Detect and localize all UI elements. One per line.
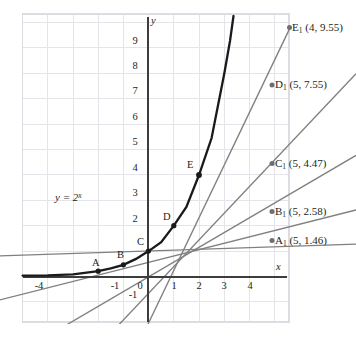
x-tick-0: 0 [133,281,147,292]
x-tick-neg4: -4 [30,281,48,292]
x-axis-name: x [276,262,281,273]
secant-lines [0,28,356,342]
endpoint-label-C1: C1 (5, 4.47) [275,158,326,170]
point-A-marker [96,269,101,274]
secant-line-E [127,28,290,342]
point-label-C: C [137,237,144,248]
point-E-marker [196,172,202,178]
x-tick-neg1: -1 [106,281,124,292]
endpoint-label-A1: A1 (5, 1.46) [275,235,327,247]
endpoint-label-E1: E1 (4, 9.55) [292,22,343,34]
x-tick-1: 1 [167,281,181,292]
endpoint-label-D1: D1 (5, 7.55) [275,79,327,91]
x-tick-3: 3 [217,281,231,292]
y-tick-6: 6 [128,112,142,123]
axes [23,17,287,322]
endpoint-label-A1-base: A [275,234,283,246]
y-axis-name: y [151,16,156,27]
endpoint-label-B1: B1 (5, 2.58) [275,206,326,218]
y-tick-2: 2 [128,214,142,225]
point-A1-marker [270,238,275,243]
point-B-marker [121,262,126,267]
endpoint-label-E1-base: E [292,21,299,33]
point-C-marker [146,249,151,254]
x-tick-4: 4 [243,281,257,292]
y-tick-4: 4 [128,163,142,174]
y-tick-7: 7 [128,86,142,97]
point-label-D: D [163,212,171,223]
y-tick-3: 3 [128,188,142,199]
y-tick-5: 5 [128,137,142,148]
x-tick-2: 2 [192,281,206,292]
point-label-B: B [117,250,124,261]
point-label-E: E [187,160,193,171]
endpoint-label-C1-coords: (5, 4.47) [286,157,326,169]
equation-exponent: x [78,191,81,200]
equation-label-text: y = 2 [55,191,78,203]
y-tick-8: 8 [128,61,142,72]
endpoint-label-B1-coords: (5, 2.58) [286,205,326,217]
endpoint-label-D1-coords: (5, 7.55) [287,78,327,90]
endpoint-label-E1-coords: (4, 9.55) [302,21,342,33]
point-label-A: A [92,258,100,269]
y-tick-9: 9 [128,36,142,47]
point-D-marker [171,223,176,228]
y-tick-neg1: -1 [124,290,142,301]
point-B1-marker [270,209,275,214]
endpoint-label-D1-base: D [275,78,283,90]
equation-label: y = 2x [55,192,82,203]
endpoint-label-A1-coords: (5, 1.46) [287,234,327,246]
secant-line-C [10,155,356,342]
graph-figure: y x 9 8 7 6 5 4 3 2 -1 -4 -1 0 1 2 3 4 y… [0,0,356,342]
point-C1-marker [270,161,275,166]
point-D1-marker [270,83,275,88]
